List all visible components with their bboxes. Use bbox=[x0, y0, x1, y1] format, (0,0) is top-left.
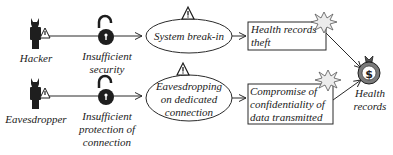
threat-label-line: System break-in bbox=[154, 30, 225, 42]
warning-triangle-icon bbox=[182, 7, 194, 19]
vulnerability-label-line: protection of bbox=[78, 123, 137, 135]
impact-label-line: Compromise of bbox=[250, 85, 319, 97]
explosion-burst-icon bbox=[311, 12, 337, 33]
threat-label-line: Eavesdropping bbox=[155, 80, 223, 92]
impact-label-line: Health records bbox=[250, 23, 316, 35]
impact-label-line: confidentiality of bbox=[250, 98, 327, 110]
asset-label-line: Health bbox=[354, 87, 385, 99]
vulnerability-label-line: Insufficient bbox=[81, 50, 132, 62]
vulnerability-label-line: connection bbox=[83, 136, 132, 148]
connector-arrow bbox=[324, 31, 361, 68]
threat-label-line: connection bbox=[165, 106, 214, 118]
vulnerability-label-line: Insufficient bbox=[81, 110, 132, 122]
asset-node-health-records: $ Health records bbox=[354, 56, 387, 112]
explosion-burst-icon bbox=[315, 70, 341, 91]
open-padlock-icon bbox=[98, 76, 114, 105]
actor-label-hacker: Hacker bbox=[19, 52, 53, 64]
threat-label-line: on dedicated bbox=[161, 93, 218, 105]
open-padlock-icon bbox=[98, 16, 114, 45]
row-hacker: Hacker Insufficient security System brea… bbox=[19, 7, 361, 75]
impact-node-health-records-theft: Health records theft bbox=[248, 12, 337, 50]
vulnerability-label-line: security bbox=[90, 63, 125, 75]
eavesdropper-icon bbox=[30, 78, 50, 109]
hacker-icon bbox=[30, 18, 50, 49]
impact-node-compromise-confidentiality: Compromise of confidentiality of data tr… bbox=[248, 70, 341, 124]
impact-label-line: theft bbox=[251, 36, 271, 48]
threat-node-system-break-in: System break-in bbox=[146, 7, 232, 53]
row-eavesdropper: Eavesdropper Insufficient protection of … bbox=[4, 63, 361, 148]
actor-label-eavesdropper: Eavesdropper bbox=[4, 113, 67, 125]
warning-triangle-icon bbox=[177, 63, 189, 75]
risk-diagram: Hacker Insufficient security System brea… bbox=[0, 0, 393, 155]
money-bag-icon: $ bbox=[358, 56, 380, 84]
asset-label-line: records bbox=[354, 100, 387, 112]
threat-node-eavesdropping: Eavesdropping on dedicated connection bbox=[146, 63, 232, 121]
dollar-symbol: $ bbox=[365, 68, 373, 81]
impact-label-line: data transmitted bbox=[250, 111, 323, 123]
